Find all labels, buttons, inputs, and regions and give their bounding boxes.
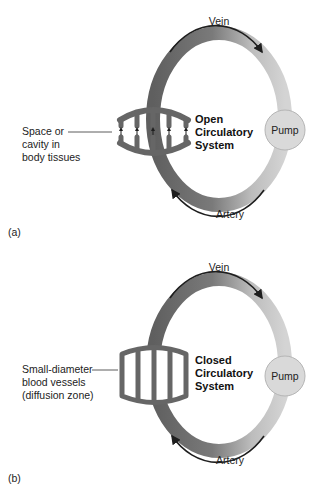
system-title-line2: Circulatory	[195, 126, 254, 138]
side-label-line2: blood vessels	[22, 376, 86, 388]
panel-a: Vein Artery Pump Open Circulatory System…	[8, 15, 305, 238]
side-label-line1: Space or	[22, 125, 65, 137]
side-label-line3: (diffusion zone)	[22, 389, 94, 401]
artery-label: Artery	[216, 208, 245, 220]
panel-label: (a)	[8, 226, 21, 238]
circulatory-diagram: Vein Artery Pump Open Circulatory System…	[0, 0, 322, 487]
side-label-line1: Small-diameter	[22, 363, 93, 375]
vessel-loop	[153, 26, 305, 217]
flow-arrows	[121, 129, 186, 135]
panel-b: Vein Artery Pump Closed Circulatory Syst…	[8, 261, 305, 484]
system-title-line3: System	[195, 139, 234, 151]
closed-bed	[122, 347, 186, 404]
system-title-line2: Circulatory	[195, 367, 254, 379]
system-title-line1: Closed	[195, 354, 232, 366]
system-title-line1: Open	[195, 113, 223, 125]
artery-label: Artery	[216, 454, 245, 466]
vein-label: Vein	[209, 15, 230, 27]
pump-label: Pump	[271, 124, 299, 136]
system-title-line3: System	[195, 380, 234, 392]
vein-label: Vein	[209, 261, 230, 273]
side-label-line2: cavity in	[22, 138, 60, 150]
side-label-line3: body tissues	[22, 151, 80, 163]
pump-label: Pump	[271, 370, 299, 382]
panel-label: (b)	[8, 472, 21, 484]
